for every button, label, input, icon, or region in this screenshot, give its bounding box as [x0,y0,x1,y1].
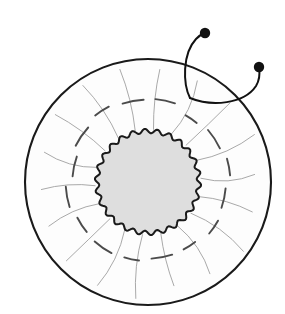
figure-root [0,0,285,314]
leader-line-2-dot[interactable] [254,62,264,72]
leader-line-1-dot[interactable] [200,28,210,38]
cross-section-diagram [0,0,285,314]
